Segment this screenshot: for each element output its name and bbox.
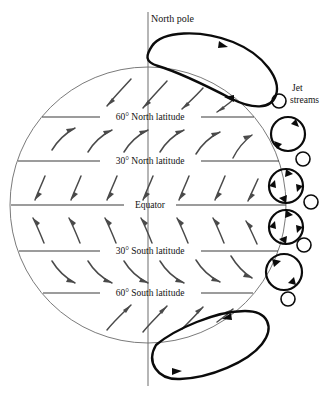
wind-arrows-trades-south <box>33 218 257 244</box>
north-polar-cell-loop <box>147 33 276 106</box>
jet-stream-circle-small-2 <box>296 152 310 166</box>
jet-stream-circle-large-2 <box>269 169 303 203</box>
jet-streams-label-line1: Jet <box>292 83 303 93</box>
wind-arrows-trades-north <box>35 176 258 201</box>
jet-streams-label-line2: streams <box>290 95 319 105</box>
diagram-canvas: North pole 60° North latitude 30° North … <box>0 0 335 398</box>
latitude-label-60n: 60° North latitude <box>116 112 185 122</box>
wind-arrows-westerlies-south <box>52 256 252 283</box>
jet-stream-circle-large-1 <box>271 117 305 151</box>
north-pole-label: North pole <box>151 13 195 24</box>
jet-stream-circle-small-4 <box>297 238 311 252</box>
latitude-label-30n: 30° North latitude <box>116 156 185 166</box>
south-polar-cell-loop <box>152 311 268 379</box>
wind-arrows-polar-south <box>107 305 233 332</box>
global-circulation-diagram: North pole 60° North latitude 30° North … <box>0 0 335 398</box>
jet-stream-circle-small-3 <box>304 195 318 209</box>
latitude-label-30s: 30° South latitude <box>116 246 185 256</box>
latitude-label-60s: 60° South latitude <box>116 288 185 298</box>
jet-stream-circle-large-4 <box>266 254 302 290</box>
jet-stream-circle-small-5 <box>281 292 295 306</box>
jet-stream-circles <box>266 94 318 306</box>
latitude-label-equator: Equator <box>135 200 166 210</box>
jet-stream-circle-large-3 <box>269 210 303 244</box>
wind-arrows-westerlies-north <box>52 128 252 158</box>
